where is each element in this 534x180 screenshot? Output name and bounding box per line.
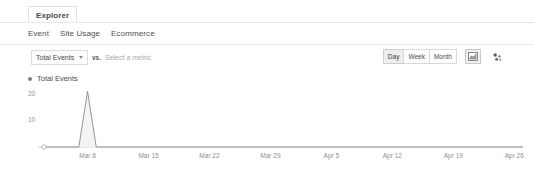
x-axis-tick: Apr 19 [444,152,463,160]
legend-series-dot [28,77,32,81]
line-chart-icon-button[interactable] [465,49,481,64]
sub-tab-event[interactable]: Event [28,28,49,39]
x-axis-tick: Mar 22 [199,152,219,160]
chart-legend: Total Events [28,74,78,84]
explorer-panel: Explorer Event Site Usage Ecommerce Tota… [0,0,534,180]
tab-explorer[interactable]: Explorer [28,6,77,23]
granularity-day[interactable]: Day [383,49,405,64]
series-origin-marker [42,145,46,149]
y-axis-tick: 20 [28,90,35,98]
metric-select[interactable]: Total Events [31,50,88,65]
series-line [44,91,523,147]
metric-select-value: Total Events [36,53,74,62]
granularity-week[interactable]: Week [403,49,430,64]
x-axis-tick: Mar 8 [79,152,96,160]
x-axis-tick: Apr 12 [383,152,402,160]
x-axis-tick: Apr 5 [324,152,340,160]
sub-tab-site-usage[interactable]: Site Usage [60,28,100,39]
compare-metric-input[interactable]: Select a metric [105,53,151,62]
motion-chart-icon-button[interactable] [489,49,505,64]
chevron-down-icon [79,56,83,59]
x-axis-tick: Apr 26 [505,152,524,160]
vs-label: vs. [92,53,101,62]
chart-area[interactable]: 20 10 Mar 8Mar 15Mar 22Mar 29Apr 5Apr 12… [0,84,534,164]
x-axis-tick: Mar 15 [138,152,158,160]
tab-strip-divider [0,22,534,23]
sub-tab-list: Event Site Usage Ecommerce [28,28,155,39]
chart-controls: Total Events vs. Select a metric Day Wee… [0,49,534,69]
view-options: Day Week Month [383,49,505,64]
y-axis-tick: 10 [28,116,35,124]
sub-tab-divider [0,44,534,45]
motion-chart-icon [492,52,503,62]
series-area [44,91,523,147]
legend-series-label: Total Events [37,74,78,84]
line-chart-icon [468,52,478,61]
chart-plot-group [38,91,523,149]
tab-strip: Explorer [0,0,534,23]
x-axis-tick: Mar 29 [260,152,280,160]
granularity-month[interactable]: Month [429,49,457,64]
granularity-group: Day Week Month [383,49,457,64]
sub-tab-ecommerce[interactable]: Ecommerce [111,28,155,39]
